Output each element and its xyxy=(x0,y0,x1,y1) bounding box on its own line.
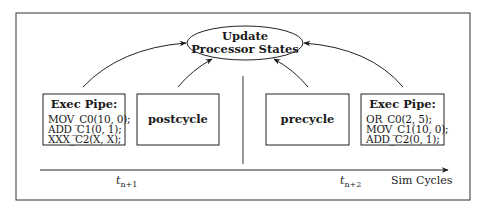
instruction-line: ADD_C2(0, 1); xyxy=(366,134,443,144)
arrow-execpipe-right-to-ellipse xyxy=(304,43,403,87)
tick-subscript: n+1 xyxy=(120,180,137,189)
arrow-execpipe-left-to-ellipse xyxy=(83,43,186,87)
exec-pipe-left: Exec Pipe: MOV_C0(10, 0); ADD_C1(0, 1); … xyxy=(44,97,124,144)
arrow-postcycle-to-ellipse xyxy=(178,59,212,87)
exec-pipe-left-title: Exec Pipe: xyxy=(44,97,124,111)
exec-pipe-right-title: Exec Pipe: xyxy=(362,97,443,111)
exec-pipe-right-code: OR_C0(2, 5); MOV_C1(10, 0); ADD_C2(0, 1)… xyxy=(362,114,443,144)
tick-t-n-plus-1: tn+1 xyxy=(116,174,137,189)
ellipse-label: Update Processor States xyxy=(187,30,303,56)
precycle-label: precycle xyxy=(266,112,349,126)
tick-t-n-plus-2: tn+2 xyxy=(340,174,361,189)
ellipse-line-2: Processor States xyxy=(187,43,303,56)
exec-pipe-left-code: MOV_C0(10, 0); ADD_C1(0, 1); XXX_C2(X, X… xyxy=(44,114,124,144)
postcycle-label: postcycle xyxy=(137,112,219,126)
arrow-precycle-to-ellipse xyxy=(274,59,308,87)
axis-label: Sim Cycles xyxy=(391,174,452,187)
tick-subscript: n+2 xyxy=(344,180,361,189)
instruction-line: XXX_C2(X, X); xyxy=(48,134,124,144)
exec-pipe-right: Exec Pipe: OR_C0(2, 5); MOV_C1(10, 0); A… xyxy=(362,97,443,144)
